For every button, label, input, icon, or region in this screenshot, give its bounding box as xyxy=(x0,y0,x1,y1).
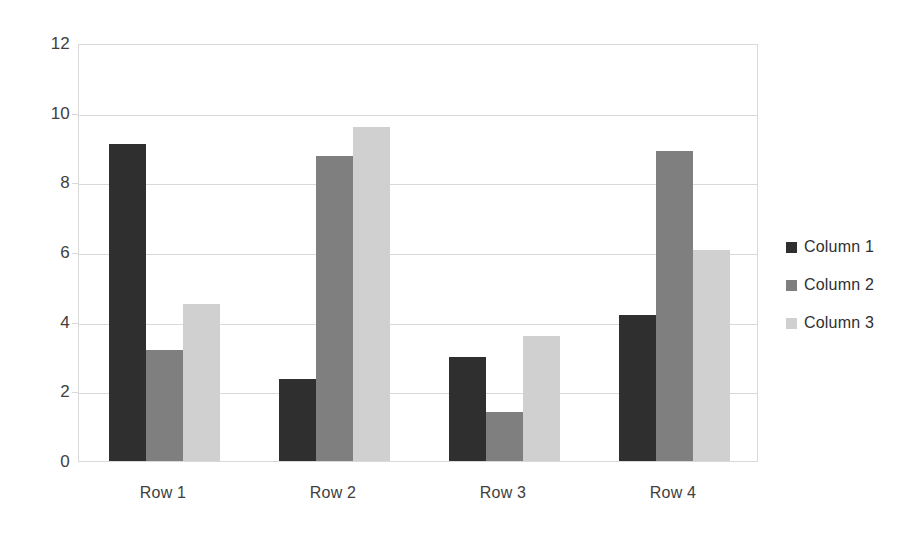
y-tick-label: 6 xyxy=(8,243,70,263)
y-tick-label: 0 xyxy=(8,452,70,472)
y-tick-label: 10 xyxy=(8,104,70,124)
x-tick-label: Row 4 xyxy=(603,484,743,502)
bar[interactable] xyxy=(656,151,693,461)
legend-label: Column 1 xyxy=(804,238,874,256)
x-tick-label: Row 3 xyxy=(433,484,573,502)
bar[interactable] xyxy=(279,379,316,461)
legend-swatch-icon xyxy=(786,280,797,291)
legend-item[interactable]: Column 3 xyxy=(786,304,916,342)
y-tick-label: 12 xyxy=(8,34,70,54)
bar[interactable] xyxy=(316,156,353,461)
bar-group xyxy=(279,45,390,461)
bar[interactable] xyxy=(523,336,560,461)
bar[interactable] xyxy=(619,315,656,461)
bar[interactable] xyxy=(146,350,183,461)
plot-area xyxy=(78,44,758,462)
bar-group xyxy=(449,45,560,461)
legend-swatch-icon xyxy=(786,242,797,253)
bar[interactable] xyxy=(486,412,523,461)
legend-label: Column 2 xyxy=(804,276,874,294)
bar[interactable] xyxy=(353,127,390,461)
y-tick-label: 2 xyxy=(8,382,70,402)
y-tick-label: 8 xyxy=(8,173,70,193)
legend-item[interactable]: Column 1 xyxy=(786,228,916,266)
bar[interactable] xyxy=(183,304,220,461)
legend-swatch-icon xyxy=(786,318,797,329)
y-tick-label: 4 xyxy=(8,313,70,333)
chart-legend: Column 1Column 2Column 3 xyxy=(786,228,916,342)
y-axis: 024681012 xyxy=(0,0,70,541)
x-tick-label: Row 2 xyxy=(263,484,403,502)
bar[interactable] xyxy=(449,357,486,462)
legend-label: Column 3 xyxy=(804,314,874,332)
bar-group xyxy=(619,45,730,461)
x-tick-label: Row 1 xyxy=(93,484,233,502)
bar[interactable] xyxy=(109,144,146,461)
legend-item[interactable]: Column 2 xyxy=(786,266,916,304)
bar-chart: 024681012 Row 1Row 2Row 3Row 4 Column 1C… xyxy=(0,0,924,541)
bar[interactable] xyxy=(693,250,730,461)
bar-group xyxy=(109,45,220,461)
